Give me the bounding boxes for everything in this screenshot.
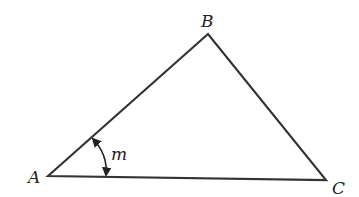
angle-arc-m bbox=[93, 139, 106, 175]
vertex-label-c: C bbox=[332, 178, 345, 197]
triangle-diagram: A B C m bbox=[0, 0, 359, 197]
vertex-label-a: A bbox=[26, 167, 40, 187]
triangle-abc bbox=[48, 34, 326, 180]
vertex-label-b: B bbox=[200, 11, 214, 31]
angle-label-m: m bbox=[111, 144, 127, 164]
